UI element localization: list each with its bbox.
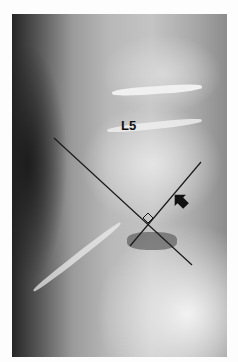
perpendicular-line <box>130 162 201 246</box>
arrow-icon <box>169 189 192 212</box>
endplate-line <box>54 138 192 265</box>
measurement-overlay <box>0 0 238 362</box>
